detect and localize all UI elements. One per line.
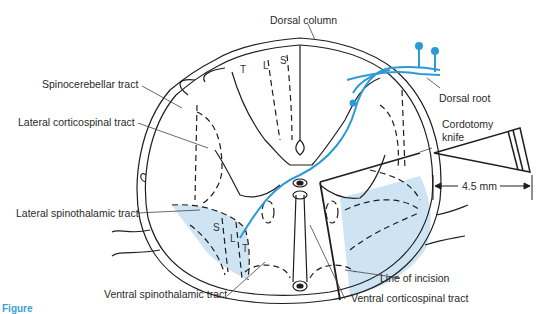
letter-dorsal-L: L — [263, 60, 269, 71]
label-lateral-spinothalamic-tract: Lateral spinothalamic tract — [16, 207, 139, 219]
label-ventral-spinothalamic-tract: Ventral spinothalamic tract — [104, 288, 227, 300]
label-cordotomy-knife-line1: Cordotomy — [442, 118, 493, 131]
label-dorsal-column: Dorsal column — [270, 14, 337, 26]
figure-caption: Figure — [2, 303, 33, 314]
label-dorsal-root: Dorsal root — [439, 92, 490, 104]
letter-lateral-T: T — [242, 243, 248, 254]
letter-lateral-S: S — [213, 222, 220, 233]
spinal-cord-diagram — [0, 0, 558, 314]
label-spinocerebellar-tract: Spinocerebellar tract — [42, 78, 138, 90]
label-lateral-corticospinal-tract: Lateral corticospinal tract — [18, 116, 135, 128]
label-line-of-incision: Line of incision — [380, 272, 449, 284]
label-cordotomy-knife-line2: knife — [442, 131, 493, 144]
label-measurement: 4.5 mm — [462, 180, 497, 192]
label-cordotomy-knife: Cordotomy knife — [442, 118, 493, 144]
letter-lateral-L: L — [230, 233, 236, 244]
letter-dorsal-S: S — [280, 55, 287, 66]
label-ventral-corticospinal-tract: Ventral corticospinal tract — [351, 292, 468, 304]
letter-dorsal-T: T — [240, 64, 246, 75]
